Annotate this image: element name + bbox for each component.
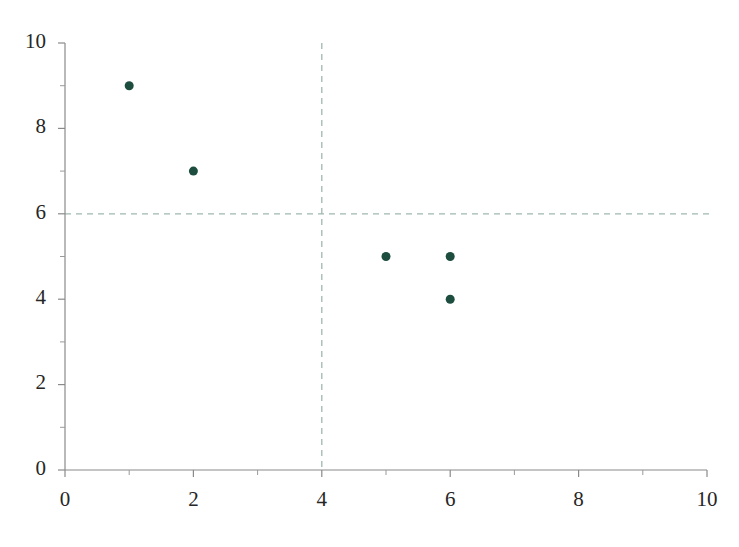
data-point — [189, 167, 198, 176]
x-tick-label-8: 8 — [573, 487, 584, 511]
y-tick-label-0: 0 — [36, 456, 47, 480]
plot-canvas: 0246810 0246810 — [0, 0, 739, 547]
y-tick-label-10: 10 — [25, 29, 46, 53]
x-tick-label-6: 6 — [445, 487, 456, 511]
y-tick-label-4: 4 — [36, 285, 47, 309]
y-tick-label-2: 2 — [36, 370, 47, 394]
scatter-plot-figure: 0246810 0246810 — [0, 0, 739, 547]
data-point — [446, 295, 455, 304]
data-point — [446, 252, 455, 261]
y-tick-label-8: 8 — [36, 114, 47, 138]
x-tick-label-0: 0 — [60, 487, 71, 511]
y-tick-label-6: 6 — [36, 200, 47, 224]
x-tick-label-10: 10 — [697, 487, 718, 511]
figure-background — [0, 0, 739, 547]
data-point — [125, 81, 134, 90]
x-tick-label-4: 4 — [317, 487, 328, 511]
data-point — [382, 252, 391, 261]
x-tick-label-2: 2 — [188, 487, 199, 511]
